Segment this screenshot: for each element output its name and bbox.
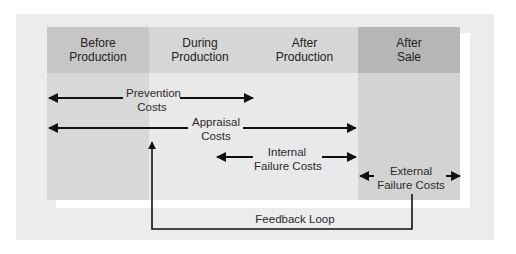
label-line2: Failure Costs xyxy=(254,160,322,172)
label-line1: Prevention xyxy=(126,87,181,99)
label-line2: Costs xyxy=(201,130,230,142)
feedback-loop-label: Feedback Loop xyxy=(250,212,340,226)
label-line2: Costs xyxy=(137,101,166,113)
external-failure-costs-label: ExternalFailure Costs xyxy=(376,164,446,192)
internal-failure-costs-label: InternalFailure Costs xyxy=(254,145,320,173)
label-line2: Failure Costs xyxy=(377,179,445,191)
appraisal-costs-label: AppraisalCosts xyxy=(190,115,242,143)
label-line1: External xyxy=(390,165,432,177)
label-line1: Appraisal xyxy=(192,116,240,128)
prevention-costs-label: PreventionCosts xyxy=(126,86,178,114)
label-line1: Internal xyxy=(268,146,306,158)
